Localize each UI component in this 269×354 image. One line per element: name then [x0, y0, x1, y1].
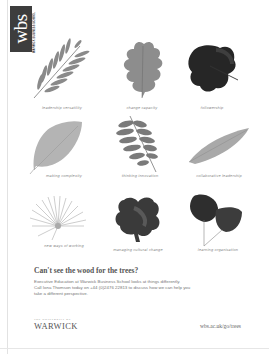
headline: Can't see the wood for the trees?	[34, 266, 138, 275]
campaign-url[interactable]: wbs.ac.uk/go/trees	[200, 323, 241, 329]
body-copy: Executive Education at Warwick Business …	[34, 279, 234, 297]
leaf-cell-1: leadership versatility	[22, 36, 102, 106]
maple-leaf-icon	[110, 194, 166, 244]
fern-leaf-icon	[108, 114, 168, 176]
leaf-caption: making complexity	[24, 174, 104, 178]
lanceolate-leaf-icon	[185, 126, 255, 170]
leaf-cell-7: new ways of working	[28, 196, 108, 266]
advert-page: wbs WARWICK BUSINESS SCHOOL leadersh	[0, 0, 269, 354]
leaf-caption: managing cultural change	[98, 248, 178, 252]
ash-leaf-icon	[22, 36, 102, 102]
oak-leaf-icon	[112, 36, 172, 102]
leaf-cell-5: thinking innovation	[108, 114, 188, 184]
leaf-cell-9: learning organisation	[186, 192, 266, 262]
bottom-rule	[0, 348, 269, 349]
leaf-caption: collaborative leadership	[179, 174, 259, 178]
body-line-3: take a different perspective.	[34, 291, 234, 297]
heart-leaf-pair-icon	[186, 192, 246, 248]
leaf-cell-6: collaborative leadership	[185, 126, 265, 196]
leaf-caption: thinking innovation	[100, 174, 180, 178]
leaf-cell-4: making complexity	[28, 118, 108, 188]
left-rule	[7, 0, 8, 354]
leaf-caption: leadership versatility	[22, 106, 102, 110]
leaf-caption: change capacity	[102, 106, 182, 110]
leaf-caption: learning organisation	[178, 248, 258, 252]
leaf-cell-3: followership	[180, 36, 260, 106]
leaf-caption: followership	[172, 106, 252, 110]
vine-leaf-icon	[180, 36, 250, 102]
leaf-caption: new ways of working	[24, 244, 104, 248]
university-logo: WARWICK	[34, 321, 78, 331]
ovate-leaf-icon	[28, 118, 88, 174]
palm-leaf-icon	[28, 196, 88, 242]
leaf-cell-8: managing cultural change	[110, 194, 190, 264]
